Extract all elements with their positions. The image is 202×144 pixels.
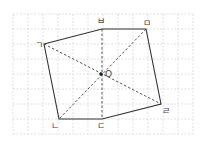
vertex-label-n: ㄴ <box>51 121 59 131</box>
vertex-label-b: ㅂ <box>97 16 105 26</box>
grid-background <box>13 14 193 134</box>
hexagon-diagram: O ㄱㅂㅁㄹㄷㄴ <box>0 0 202 144</box>
vertex-label-r: ㄹ <box>162 106 170 116</box>
vertex-label-d: ㄷ <box>97 121 105 131</box>
vertex-label-m: ㅁ <box>143 18 151 28</box>
center-point <box>99 72 103 76</box>
center-label: O <box>105 69 112 79</box>
vertex-label-g: ㄱ <box>35 40 43 50</box>
